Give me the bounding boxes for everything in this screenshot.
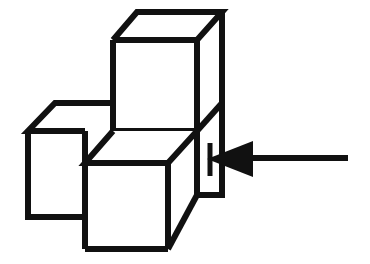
front-cube-front-face [85, 163, 168, 249]
left-cube-front-face [28, 131, 85, 217]
top-cube [113, 12, 222, 131]
cube-figure-svg: Isometric cube stack with pointing arrow… [0, 0, 370, 264]
figure-container: Isometric cube stack with pointing arrow… [0, 0, 370, 264]
front-cube [85, 131, 197, 249]
top-cube-front-face [113, 40, 197, 131]
